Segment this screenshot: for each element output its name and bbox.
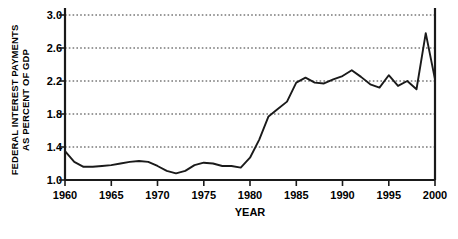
chart-container: FEDERAL INTEREST PAYMENTS AS PERCENT OF … bbox=[0, 0, 458, 239]
x-axis-title: YEAR bbox=[65, 206, 435, 218]
gridlines bbox=[65, 15, 435, 147]
data-series-line bbox=[65, 33, 435, 173]
plot-area bbox=[0, 0, 458, 239]
axis-spines bbox=[65, 8, 435, 180]
